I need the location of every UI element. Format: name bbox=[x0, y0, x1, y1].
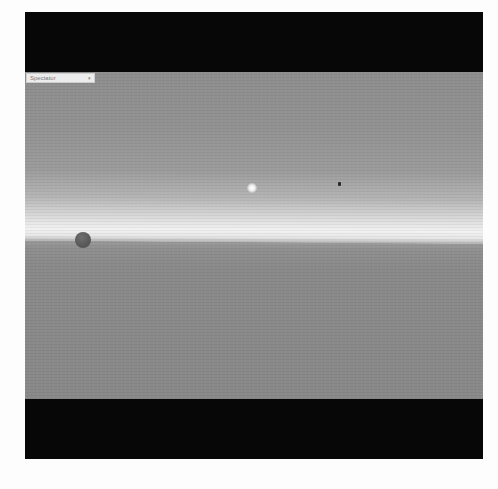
letterbox-bottom bbox=[25, 399, 483, 459]
ground-plane bbox=[25, 241, 483, 399]
cursor-marker-icon bbox=[338, 182, 341, 186]
figure-caption bbox=[130, 480, 370, 489]
letterbox-top bbox=[25, 12, 483, 72]
sun-light-icon bbox=[247, 183, 257, 193]
chevron-down-icon: ▾ bbox=[88, 76, 91, 81]
page: Spectator ▾ bbox=[0, 0, 498, 489]
viewport-frame: Spectator ▾ bbox=[25, 12, 483, 459]
camera-mode-selected: Spectator bbox=[30, 75, 86, 81]
sky bbox=[25, 72, 483, 244]
3d-viewport[interactable]: Spectator ▾ bbox=[25, 72, 483, 399]
sphere-object[interactable] bbox=[75, 232, 91, 248]
camera-mode-dropdown[interactable]: Spectator ▾ bbox=[26, 73, 95, 83]
